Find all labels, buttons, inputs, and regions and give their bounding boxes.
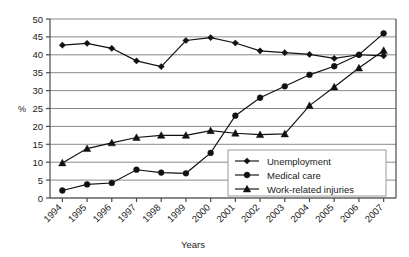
data-point-marker bbox=[133, 58, 139, 64]
y-axis-tick-label: 0 bbox=[38, 193, 43, 204]
y-axis-tick-label: 20 bbox=[32, 121, 43, 132]
x-axis-tick-label: 2000 bbox=[189, 202, 212, 225]
data-point-marker bbox=[257, 95, 263, 101]
y-axis-tick-label: 15 bbox=[32, 139, 43, 150]
y-axis-tick-label: 40 bbox=[32, 49, 43, 60]
x-axis-tick-label: 1995 bbox=[66, 202, 89, 225]
data-point-marker bbox=[208, 35, 214, 41]
data-point-marker bbox=[282, 83, 288, 89]
y-axis-tick-label: 50 bbox=[32, 14, 43, 25]
x-axis-tick-label: 1999 bbox=[165, 202, 188, 225]
x-axis-tick-label: 2002 bbox=[239, 202, 262, 225]
x-axis-tick-label: 2006 bbox=[338, 202, 361, 225]
data-point-marker bbox=[380, 47, 387, 54]
x-axis-tick-label: 1994 bbox=[41, 202, 64, 225]
data-point-marker bbox=[208, 150, 214, 156]
data-point-marker bbox=[158, 170, 164, 176]
data-point-marker bbox=[381, 30, 387, 36]
data-point-marker bbox=[84, 40, 90, 46]
data-point-marker bbox=[331, 55, 337, 61]
legend-item-label: Medical care bbox=[267, 170, 321, 181]
data-point-marker bbox=[109, 45, 115, 51]
data-point-marker bbox=[331, 63, 337, 69]
x-axis-tick-label: 2005 bbox=[313, 202, 336, 225]
y-axis-tick-label: 5 bbox=[38, 175, 43, 186]
data-point-marker bbox=[232, 40, 238, 46]
chart-legend: UnemploymentMedical careWork-related inj… bbox=[228, 150, 386, 196]
x-axis-tick-label: 1996 bbox=[90, 202, 113, 225]
data-point-marker bbox=[109, 180, 115, 186]
legend-item-label: Work-related injuries bbox=[267, 184, 354, 195]
data-point-marker bbox=[244, 172, 250, 178]
y-axis-tick-label: 30 bbox=[32, 85, 43, 96]
legend-item-label: Unemployment bbox=[267, 156, 331, 167]
data-point-marker bbox=[306, 51, 312, 57]
chart-canvas: 05101520253035404550%1994199519961997199… bbox=[0, 0, 409, 257]
y-axis-tick-label: 45 bbox=[32, 31, 43, 42]
data-point-marker bbox=[307, 72, 313, 78]
line-chart: 05101520253035404550%1994199519961997199… bbox=[0, 0, 409, 257]
data-point-marker bbox=[306, 102, 313, 109]
data-point-marker bbox=[183, 170, 189, 176]
x-axis-tick-label: 2001 bbox=[214, 202, 237, 225]
x-axis-tick-label: 1997 bbox=[115, 202, 138, 225]
data-point-marker bbox=[356, 52, 362, 58]
data-point-marker bbox=[207, 127, 214, 134]
data-point-marker bbox=[134, 167, 140, 173]
x-axis-tick-label: 2007 bbox=[362, 202, 385, 225]
data-point-marker bbox=[59, 188, 65, 194]
y-axis-tick-label: 10 bbox=[32, 157, 43, 168]
x-axis-tick-label: 2004 bbox=[288, 202, 311, 225]
y-axis-tick-label: 25 bbox=[32, 103, 43, 114]
series-line bbox=[62, 38, 383, 67]
y-axis-tick-label: 35 bbox=[32, 67, 43, 78]
data-point-marker bbox=[355, 64, 362, 71]
y-axis-title: % bbox=[18, 104, 26, 114]
x-axis-tick-label: 2003 bbox=[263, 202, 286, 225]
data-point-marker bbox=[59, 42, 65, 48]
x-axis-title: Years bbox=[181, 239, 205, 250]
data-point-marker bbox=[232, 113, 238, 119]
data-point-marker bbox=[84, 181, 90, 187]
data-point-marker bbox=[257, 48, 263, 54]
x-axis-tick-label: 1998 bbox=[140, 202, 163, 225]
